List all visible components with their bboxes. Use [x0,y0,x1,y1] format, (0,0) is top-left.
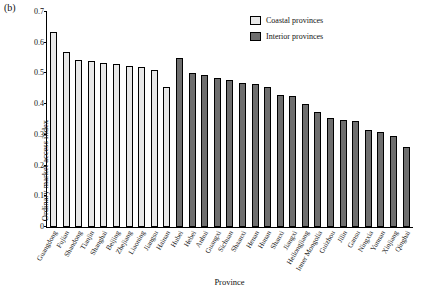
x-axis-tick: Shandong [74,230,81,274]
bar [113,64,120,227]
chart-figure: (b) Coastal provinces Interior provinces… [0,0,431,292]
bar [50,32,57,227]
x-axis-tick-labels: GuangdongFujianShandongTianjinShanghaiBe… [46,230,413,274]
bar [277,95,284,227]
x-axis-tick: Sichuan [226,230,233,274]
x-axis-tick: Hebei [188,230,195,274]
x-axis-tick: Ningxia [365,230,372,274]
y-axis-tick-label: 0.5 [34,69,44,77]
bar [100,63,107,227]
x-axis-tick: Hubei [175,230,182,274]
bar [176,58,183,227]
bar-series [47,12,413,227]
bar [163,87,170,227]
bar [252,84,259,227]
x-axis-tick: Qinghai [403,230,410,274]
bar [138,67,145,227]
bar [403,147,410,227]
bar [226,80,233,227]
x-axis-tick: Guizhou [327,230,334,274]
bar [314,112,321,227]
bar [189,73,196,227]
y-axis-tick-label: 0.7 [34,8,44,16]
bar [340,120,347,228]
y-axis-tick-label: 0.6 [34,39,44,47]
bar [365,130,372,227]
bar [151,70,158,227]
x-axis-tick: Hunan [264,230,271,274]
bar [264,87,271,227]
bar [289,96,296,227]
y-axis-tick-label: 0.2 [34,162,44,170]
y-axis-tick-label: 0.4 [34,100,44,108]
x-axis-tick: Guangdong [49,230,56,274]
bar [126,66,133,227]
x-axis-tick: Shaanxi [239,230,246,274]
y-axis-tick-label: 0.3 [34,131,44,139]
x-axis-tick: Xinjiang [390,230,397,274]
bar [377,132,384,227]
x-axis-tick: Liaoning [137,230,144,274]
x-axis-tick: Henan [251,230,258,274]
x-axis-tick: Shanghai [100,230,107,274]
bar [302,104,309,227]
x-axis-tick: Jiangsu [150,230,157,274]
x-axis-tick: Guangxi [213,230,220,274]
x-axis-tick: Hainan [163,230,170,274]
plot-area: Ordinary market access index 00.10.20.30… [46,12,413,228]
panel-label: (b) [4,2,16,13]
bar [201,75,208,227]
x-axis-tick: Gansu [352,230,359,274]
x-axis-tick: Jilin [340,230,347,274]
bar [352,121,359,227]
x-axis-title: Province [46,277,413,287]
bar [214,78,221,227]
bar [390,136,397,227]
x-axis-tick: Shanxi [277,230,284,274]
bar [327,118,334,227]
bar [239,83,246,227]
y-axis-tick-label: 0.1 [34,192,44,200]
bar [75,60,82,227]
x-axis-tick-label: Guangdong [36,230,59,263]
bar [88,61,95,227]
bar [63,52,70,227]
y-axis-tick-label: 0 [40,223,44,231]
